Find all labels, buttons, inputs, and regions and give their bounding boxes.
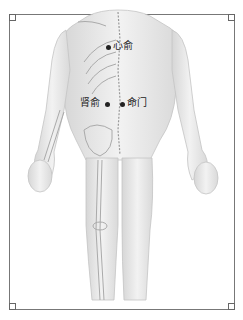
acupoint-dot-mingmen	[120, 102, 125, 107]
acupoint-label-shenshu: 肾俞	[80, 98, 100, 108]
acupoint-dot-shenshu	[105, 102, 110, 107]
acupoint-label-mingmen: 命门	[127, 98, 147, 108]
acupoint-dot-xinshu	[106, 45, 111, 50]
acupoint-label-xinshu: 心俞	[113, 41, 133, 51]
